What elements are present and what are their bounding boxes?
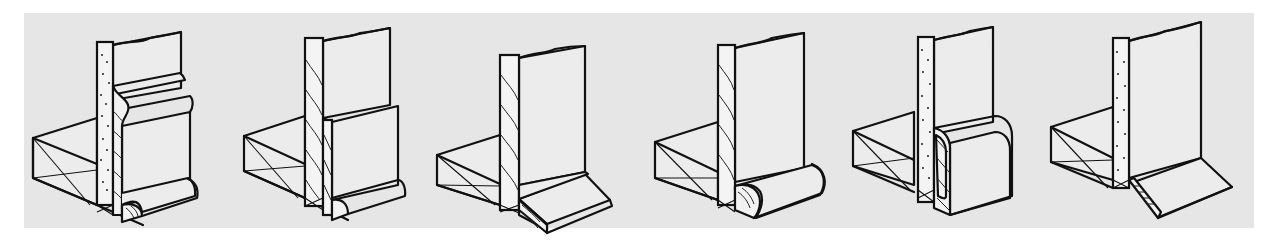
figure-3-beveled-base-wood-wall xyxy=(437,46,612,233)
figure-6-angled-base-strip-plaster-wall xyxy=(1051,22,1232,218)
baseboard-diagram xyxy=(0,0,1274,245)
figure-1-ogee-baseboard-plaster-wall xyxy=(33,32,198,225)
figure-5-rounded-cove-base-plaster-wall xyxy=(853,27,1012,215)
figure-2-square-baseboard-wood-wall xyxy=(244,28,405,220)
figure-4-half-round-base-wood-wall xyxy=(655,33,825,218)
